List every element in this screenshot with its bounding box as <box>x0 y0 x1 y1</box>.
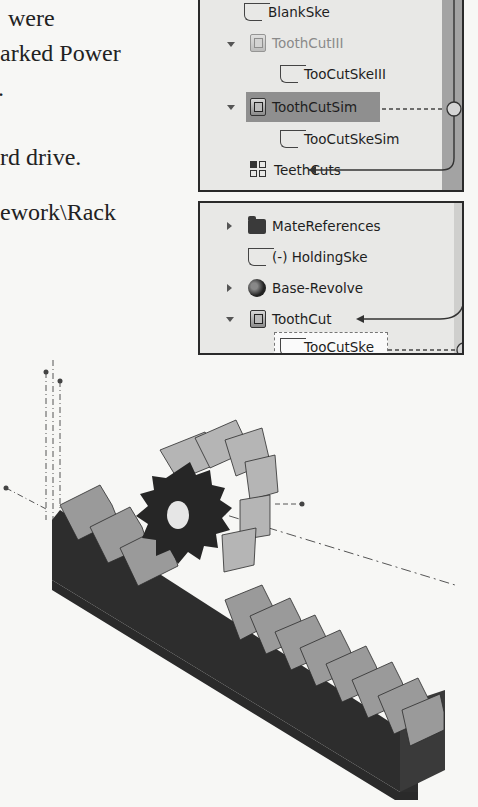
gear-bore <box>167 501 189 529</box>
feature-tree-panel-top: BlankSke ToothCutIII TooCutSkeIII ToothC… <box>198 0 464 192</box>
model-viewport[interactable] <box>0 360 478 807</box>
dependency-arrows <box>200 0 464 192</box>
text-line-5: ework\Rack <box>0 200 116 224</box>
spur-gear <box>136 420 278 572</box>
dependency-arrows <box>200 203 464 355</box>
text-line-2: arked Power <box>0 41 121 65</box>
feature-tree-panel-bottom: MateReferences (-) HoldingSke Base-Revol… <box>198 201 464 355</box>
text-line-1: were <box>8 6 55 30</box>
text-line-3: . <box>0 76 4 100</box>
text-line-4: rd drive. <box>0 145 81 169</box>
